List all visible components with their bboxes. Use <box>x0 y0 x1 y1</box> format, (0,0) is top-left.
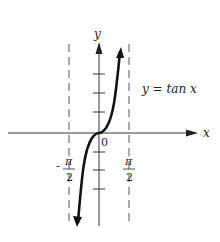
origin-label: 0 <box>101 136 108 149</box>
curve-bottom-arrow-icon <box>73 216 82 227</box>
svg-text:2: 2 <box>66 171 73 184</box>
right-asymptote-label: π 2 <box>123 155 135 184</box>
tan-graph: y x 0 y = tan x - π 2 π 2 <box>0 0 220 242</box>
y-axis-arrow-icon <box>96 42 103 54</box>
x-axis-label: x <box>203 126 210 140</box>
svg-text:2: 2 <box>126 171 133 184</box>
left-asymptote-label: - π 2 <box>56 155 75 184</box>
x-axis-arrow-icon <box>186 130 198 137</box>
svg-text:π: π <box>64 155 73 168</box>
y-axis-label: y <box>93 27 101 41</box>
svg-text:π: π <box>124 155 133 168</box>
curve-top-arrow-icon <box>116 47 124 58</box>
equation-label: y = tan x <box>141 82 197 96</box>
svg-text:-: - <box>56 160 60 173</box>
